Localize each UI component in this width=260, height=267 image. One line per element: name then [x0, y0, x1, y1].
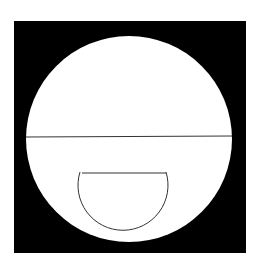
white-circle — [26, 36, 232, 242]
diagram-canvas — [0, 0, 260, 267]
